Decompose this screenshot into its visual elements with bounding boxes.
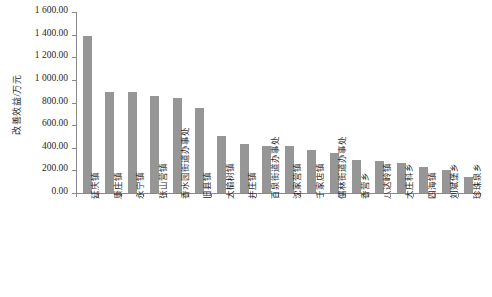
x-category-label: 井庄镇: [248, 172, 257, 199]
x-category-label: 香水园街道办事处: [181, 127, 190, 199]
y-tick-label: 1 200.00: [35, 50, 68, 60]
x-category-label: 八达岭镇: [383, 163, 392, 199]
x-category-label: 千家店镇: [316, 163, 325, 199]
bar: [83, 36, 92, 193]
y-tick-label: 200.00: [42, 163, 68, 173]
x-category-label: 刘斌堡乡: [450, 163, 459, 199]
x-category-label: 大榆树镇: [226, 163, 235, 199]
y-axis-title: 改善效益/万元: [10, 45, 23, 165]
x-category-label: 香营乡: [361, 172, 370, 199]
y-tick-mark: [72, 103, 76, 104]
y-tick-mark: [72, 57, 76, 58]
x-tick-mark: [76, 193, 77, 197]
x-category-label: 旧县镇: [203, 172, 212, 199]
y-tick-label: 800.00: [42, 96, 68, 106]
x-category-label: 大庄科乡: [405, 163, 414, 199]
y-tick-mark: [72, 12, 76, 13]
y-tick-mark: [72, 35, 76, 36]
y-tick-mark: [72, 125, 76, 126]
x-category-label: 四海镇: [428, 172, 437, 199]
x-category-label: 珍珠泉乡: [473, 163, 482, 199]
y-tick-label: 1 600.00: [35, 5, 68, 15]
y-tick-label: 1 000.00: [35, 73, 68, 83]
x-category-label: 张山营镇: [159, 163, 168, 199]
x-category-label: 百泉街道办事处: [271, 136, 280, 199]
y-tick-label: 400.00: [42, 141, 68, 151]
x-category-label: 延庆镇: [91, 172, 100, 199]
x-category-label: 康庄镇: [114, 172, 123, 199]
x-category-label: 沈家营镇: [293, 163, 302, 199]
y-tick-label: 600.00: [42, 118, 68, 128]
y-tick-mark: [72, 148, 76, 149]
x-category-label: 儒林街道办事处: [338, 136, 347, 199]
y-axis-line: [76, 12, 77, 193]
bar-chart: 改善效益/万元 1 600.001 400.001 200.001 000.00…: [0, 0, 492, 297]
x-category-label: 永宁镇: [136, 172, 145, 199]
y-tick-mark: [72, 80, 76, 81]
y-tick-label: 0.00: [51, 186, 68, 196]
y-tick-label: 1 400.00: [35, 28, 68, 38]
y-tick-mark: [72, 170, 76, 171]
